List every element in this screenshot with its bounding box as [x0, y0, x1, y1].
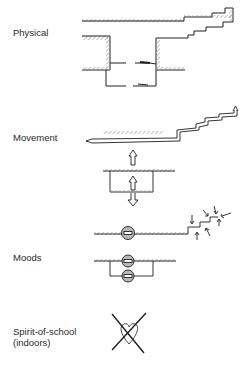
- physical-figure: [82, 8, 234, 86]
- diagram-canvas: [0, 0, 251, 372]
- heart-icon: [121, 324, 138, 344]
- moods-figure: [94, 206, 231, 282]
- spirit-figure: [112, 313, 146, 353]
- movement-figure: [86, 106, 238, 206]
